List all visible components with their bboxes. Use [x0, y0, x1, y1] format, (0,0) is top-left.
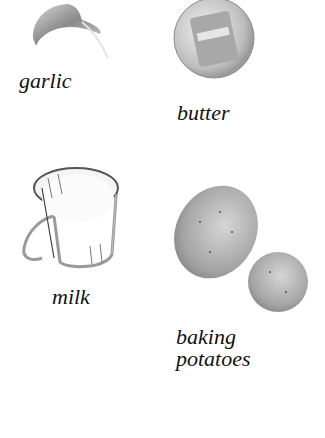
butter-label: butter — [177, 102, 230, 124]
potatoes-image — [170, 182, 310, 314]
butter-image — [172, 0, 260, 80]
potatoes-label-line2: potatoes — [176, 348, 251, 370]
garlic-label: garlic — [19, 70, 72, 92]
milk-label: milk — [52, 286, 90, 308]
garlic-image — [30, 0, 110, 60]
milk-image — [18, 158, 123, 273]
potatoes-label-line1: baking — [176, 326, 236, 348]
